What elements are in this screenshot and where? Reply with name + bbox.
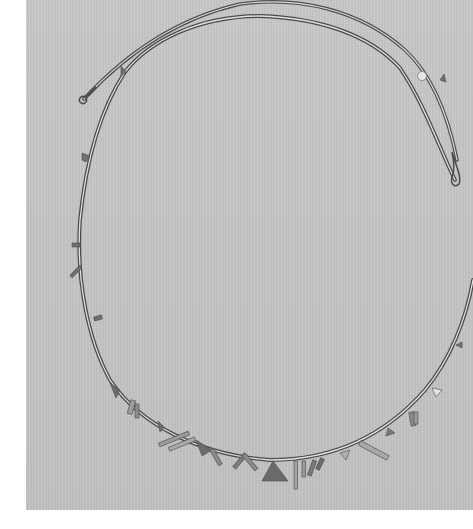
disc-bead-icon	[418, 72, 427, 81]
outer-strand	[84, 2, 457, 160]
clasp-left-icon	[79, 87, 96, 104]
necklace-photo: Thin metal tubular-bead necklace laid in…	[26, 0, 473, 510]
pendant-charms	[110, 383, 442, 489]
side-charms	[70, 66, 462, 348]
main-strand	[79, 16, 473, 460]
necklace-illustration	[26, 0, 473, 510]
